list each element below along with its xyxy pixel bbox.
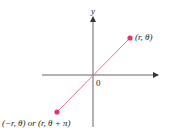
polar-diagram: y 0 (r, θ) (−r, θ) or (r, θ + π) (0, 0, 169, 138)
point-r-theta-label: (r, θ) (135, 32, 152, 42)
point-r-theta-marker (127, 35, 132, 40)
diagram-svg: y 0 (r, θ) (−r, θ) or (r, θ + π) (0, 0, 169, 138)
point-neg-r-theta-marker (54, 109, 59, 114)
y-axis-label: y (90, 6, 95, 16)
origin-label: 0 (96, 78, 101, 88)
point-neg-r-theta-label: (−r, θ) or (r, θ + π) (2, 118, 71, 128)
